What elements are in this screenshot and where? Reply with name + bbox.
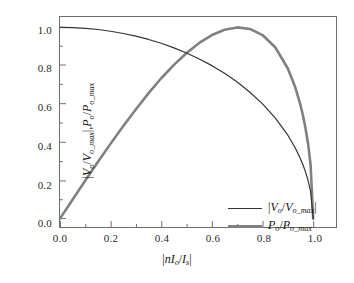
legend-label-voltage: |Vo/Vo_max| bbox=[268, 200, 317, 215]
y-tick-label-1-0: 1.0 bbox=[22, 24, 52, 36]
plot-area: |Vo/Vo_max| Po/Po_max |Vo/Vo_max|,Po/Po_… bbox=[59, 16, 337, 228]
series-line-voltage bbox=[60, 27, 313, 218]
y-tick-label-0-6: 0.6 bbox=[22, 101, 52, 113]
axis-ticks bbox=[60, 27, 314, 227]
y-tick-label-0-2: 0.2 bbox=[22, 179, 52, 191]
legend-label-power: Po/Po_max bbox=[268, 218, 312, 233]
y-axis-title: |Vo/Vo_max|,Po/Po_max bbox=[80, 41, 95, 221]
x-tick-label-0-6: 0.6 bbox=[196, 232, 230, 244]
y-tick-label-0-0: 0.0 bbox=[22, 217, 52, 229]
chart-figure: 1.0 0.8 0.6 0.4 0.2 0.0 0.0 0.2 0.4 0.6 … bbox=[0, 0, 354, 283]
plot-canvas bbox=[60, 17, 336, 227]
legend-swatch-voltage bbox=[228, 208, 262, 209]
chart-legend: |Vo/Vo_max| Po/Po_max bbox=[228, 199, 354, 235]
x-axis-title: |nIo/Is| bbox=[0, 252, 354, 267]
x-tick-label-0-0: 0.0 bbox=[43, 232, 77, 244]
y-tick-label-0-4: 0.4 bbox=[22, 140, 52, 152]
legend-item-voltage: |Vo/Vo_max| bbox=[228, 199, 354, 217]
legend-item-power: Po/Po_max bbox=[228, 217, 354, 235]
y-tick-label-0-8: 0.8 bbox=[22, 62, 52, 74]
x-tick-label-0-4: 0.4 bbox=[145, 232, 179, 244]
x-tick-label-0-2: 0.2 bbox=[94, 232, 128, 244]
series-line-power bbox=[60, 27, 313, 218]
legend-swatch-power bbox=[228, 225, 262, 228]
